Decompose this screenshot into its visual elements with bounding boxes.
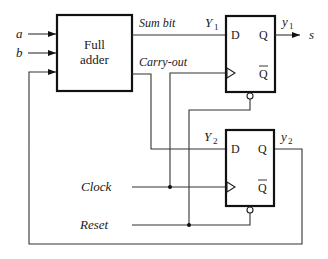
flip-flop-2: D Q Q: [226, 130, 274, 213]
clock-wire-ff1: [170, 73, 226, 187]
ff1-d-label: D: [231, 28, 240, 42]
sum-bit-label: Sum bit: [139, 16, 176, 30]
reset-junction-dot: [187, 223, 191, 227]
clock-label: Clock: [81, 179, 112, 194]
svg-text:2: 2: [288, 136, 293, 146]
svg-text:2: 2: [213, 136, 218, 146]
svg-text:1: 1: [214, 22, 219, 32]
svg-text:1: 1: [289, 21, 294, 31]
ff1-reset-bubble-icon: [247, 93, 253, 99]
input-b: b: [16, 45, 56, 60]
ff2-reset-bubble-icon: [247, 207, 253, 213]
Y1-label: Y 1: [205, 15, 219, 32]
ff2-q-label: Q: [258, 142, 267, 156]
flip-flop-1: D Q Q: [226, 16, 275, 99]
clock-junction-dot: [168, 185, 172, 189]
ff1-qbar-label: Q: [259, 67, 268, 81]
input-b-label: b: [16, 45, 23, 60]
ff2-d-label: D: [231, 142, 240, 156]
svg-text:y: y: [279, 129, 287, 144]
ff2-qbar-label: Q: [258, 181, 267, 195]
Y2-label: Y 2: [204, 129, 218, 146]
full-adder-label-line2: adder: [80, 52, 110, 67]
reset-wire-ff2: [132, 213, 250, 225]
full-adder-label-line1: Full: [84, 37, 105, 52]
input-a-label: a: [16, 26, 23, 41]
output-s-label: s: [309, 27, 314, 42]
carry-out-label: Carry-out: [139, 55, 188, 69]
svg-text:Y: Y: [204, 129, 213, 144]
svg-text:Y: Y: [205, 15, 214, 30]
y1-label: y 1: [280, 14, 294, 31]
serial-adder-diagram: Full adder a b Sum bit Y 1 Carry-out Y 2…: [0, 0, 328, 259]
input-a: a: [16, 26, 56, 41]
carry-out-wire: [132, 74, 226, 149]
full-adder-block: Full adder: [57, 15, 132, 91]
svg-text:y: y: [280, 14, 288, 29]
ff1-q-label: Q: [259, 28, 268, 42]
reset-label: Reset: [79, 217, 109, 232]
y2-label: y 2: [279, 129, 293, 146]
